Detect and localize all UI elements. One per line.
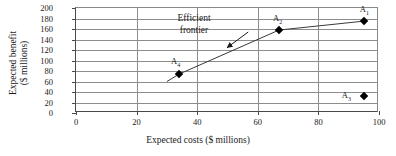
y-axis-tick-label: 140 (13, 36, 53, 45)
annotation-line1: Efficient (177, 13, 210, 23)
y-axis-tick-label: 60 (13, 78, 53, 87)
y-axis-tick-label: 180 (13, 15, 53, 24)
y-axis-tick-label: 40 (13, 88, 53, 97)
y-axis-tick-label: 20 (13, 99, 53, 108)
efficient-frontier-annotation: Efficient frontier (163, 13, 225, 36)
y-axis-tick-label: 0 (13, 109, 53, 118)
x-axis-label: Expected costs ($ millions) (0, 135, 396, 145)
data-point-label: A3 (342, 91, 351, 103)
x-axis-tick (379, 111, 380, 115)
y-axis-tick-label: 200 (13, 4, 53, 13)
annotation-line2: frontier (163, 25, 225, 37)
x-axis-tick-label: 20 (117, 118, 157, 127)
y-axis-tick-label: 100 (13, 57, 53, 66)
data-point-label: A4 (171, 57, 180, 69)
x-axis-tick-label: 0 (56, 118, 96, 127)
data-point-label: A1 (360, 5, 369, 17)
efficient-frontier-line (76, 8, 379, 113)
x-axis-tick-label: 60 (238, 118, 278, 127)
y-axis-tick-label: 120 (13, 46, 53, 55)
plot-area: 020406080100120140160180200 020406080100… (75, 7, 378, 112)
x-axis-tick-label: 40 (177, 118, 217, 127)
x-axis-tick-label: 100 (359, 118, 396, 127)
efficient-frontier-chart: Expected benefit ($ millions) Expected c… (0, 0, 396, 156)
x-axis-tick-label: 80 (298, 118, 338, 127)
y-axis-tick-label: 160 (13, 25, 53, 34)
annotation-arrow-icon (221, 26, 254, 54)
data-point-label: A2 (273, 14, 282, 26)
y-axis-tick-label: 80 (13, 67, 53, 76)
